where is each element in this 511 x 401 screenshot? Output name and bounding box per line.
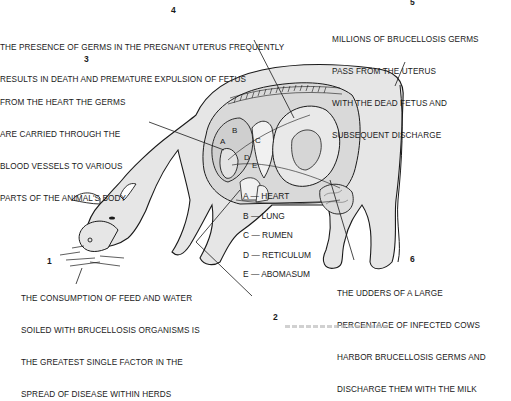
legend-lung: B — LUNG bbox=[243, 211, 285, 221]
callout-number-6: 6 bbox=[410, 254, 415, 264]
cow-head bbox=[79, 221, 118, 251]
callout-number-2: 2 bbox=[273, 312, 278, 322]
organ-letter-b: B bbox=[232, 126, 237, 135]
legend-rumen: C — RUMEN bbox=[243, 230, 293, 240]
truncated-caption-fragment bbox=[285, 325, 390, 328]
legend-abomasum: E — ABOMASUM bbox=[243, 269, 310, 279]
cow-eye bbox=[109, 216, 115, 219]
callout-text-3: FROM THE HEART THE GERMS ARE CARRIED THR… bbox=[0, 77, 126, 215]
legend-reticulum: D — RETICULUM bbox=[243, 250, 311, 260]
callout-number-5: 5 bbox=[410, 0, 415, 7]
callout-number-1: 1 bbox=[47, 256, 52, 266]
callout-number-4: 4 bbox=[171, 5, 176, 15]
organ-letter-e: E bbox=[252, 161, 257, 170]
organ-letter-d: D bbox=[244, 153, 250, 162]
callout-text-6: THE UDDERS OF A LARGE PERCENTAGE OF INFE… bbox=[337, 268, 486, 401]
organ-letter-c: C bbox=[255, 136, 261, 145]
callout-text-5: MILLIONS OF BRUCELLOSIS GERMS PASS FROM … bbox=[332, 14, 479, 152]
legend-heart: A — HEART bbox=[243, 191, 289, 201]
udder bbox=[320, 184, 353, 214]
organ-letter-a: A bbox=[220, 137, 226, 146]
callout-text-1: THE CONSUMPTION OF FEED AND WATER SOILED… bbox=[21, 273, 200, 401]
